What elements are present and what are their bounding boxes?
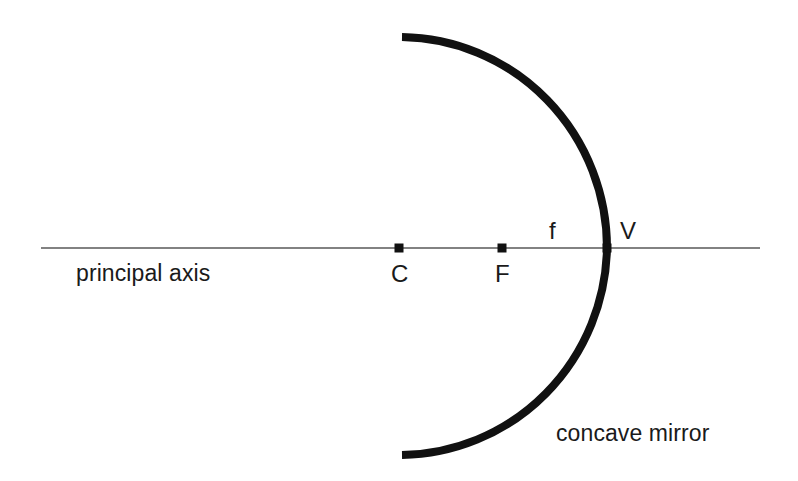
point-label-v: V — [620, 219, 636, 243]
focal-length-label: f — [549, 219, 556, 243]
focal-point-marker — [498, 244, 507, 253]
diagram-canvas — [0, 0, 798, 481]
principal-axis-label: principal axis — [76, 262, 210, 285]
point-label-c: C — [391, 262, 408, 286]
concave-mirror-diagram: principal axis C F V f concave mirror — [0, 0, 798, 481]
center-of-curvature-marker — [395, 244, 404, 253]
vertex-marker — [603, 244, 612, 253]
point-label-f: F — [495, 262, 510, 286]
concave-mirror-label: concave mirror — [556, 422, 710, 445]
